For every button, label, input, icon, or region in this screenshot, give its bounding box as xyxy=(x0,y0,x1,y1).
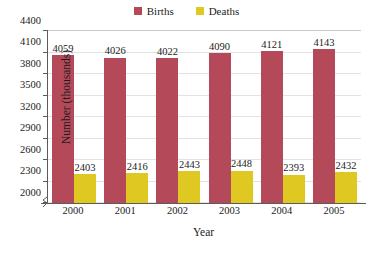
bar-value-label: 2416 xyxy=(127,162,148,173)
bar-value-label: 2448 xyxy=(231,159,252,170)
bar-deaths-2004: 2393 xyxy=(283,175,305,203)
bar-value-label: 2443 xyxy=(179,160,200,171)
chart-legend: Births Deaths xyxy=(0,2,373,20)
x-axis-labels: 200020012002200320042005 xyxy=(47,206,360,217)
bar-births-2003: 4090 xyxy=(209,53,231,203)
bar-group: 40902448 xyxy=(205,31,257,203)
x-axis-line xyxy=(41,203,366,204)
y-axis-tick-label: 3800 xyxy=(20,58,41,69)
legend-swatch-births xyxy=(134,7,142,15)
bar-group: 40222443 xyxy=(152,31,204,203)
y-axis-tick-label: 3200 xyxy=(20,101,41,112)
y-axis-tick-label: 4400 xyxy=(20,15,41,26)
x-axis-label-2005: 2005 xyxy=(308,206,360,217)
y-axis-tick-label: 4100 xyxy=(20,37,41,48)
bar-deaths-2005: 2432 xyxy=(335,172,357,203)
bar-births-2005: 4143 xyxy=(313,49,335,203)
bar-value-label: 4143 xyxy=(313,38,334,49)
y-axis-title: Number (thousands) xyxy=(60,32,72,162)
x-axis-label-2001: 2001 xyxy=(99,206,151,217)
y-axis-tick-label: 2300 xyxy=(20,166,41,177)
legend-label-births: Births xyxy=(147,6,174,17)
bar-value-label: 2432 xyxy=(335,161,356,172)
bar-deaths-2001: 2416 xyxy=(126,173,148,203)
bar-group: 41212393 xyxy=(257,31,309,203)
x-axis-label-2004: 2004 xyxy=(256,206,308,217)
bar-value-label: 2403 xyxy=(75,163,96,174)
bar-group: 40592403 xyxy=(48,31,100,203)
bar-deaths-2000: 2403 xyxy=(74,174,96,203)
bar-deaths-2003: 2448 xyxy=(231,171,253,203)
y-axis-tick-label: 2000 xyxy=(20,187,41,198)
bar-deaths-2002: 2443 xyxy=(178,171,200,203)
bar-value-label: 4090 xyxy=(209,42,230,53)
x-axis-label-2002: 2002 xyxy=(151,206,203,217)
x-axis-title: Year xyxy=(47,226,360,238)
bar-groups: 4059240340262416402224434090244841212393… xyxy=(48,31,361,203)
bar-births-2002: 4022 xyxy=(156,58,178,203)
bar-births-2001: 4026 xyxy=(104,58,126,203)
y-axis-tick-label: 2900 xyxy=(20,123,41,134)
y-axis-tick-label: 3500 xyxy=(20,80,41,91)
legend-entry-births: Births xyxy=(134,6,174,17)
plot-area: 200023002600290032003500380041004400 405… xyxy=(47,31,360,203)
bar-group: 41432432 xyxy=(309,31,361,203)
bar-value-label: 4121 xyxy=(261,40,282,51)
legend-entry-deaths: Deaths xyxy=(196,6,240,17)
bar-value-label: 4026 xyxy=(105,46,126,57)
y-axis-tick-label: 2600 xyxy=(20,144,41,155)
bar-births-2004: 4121 xyxy=(261,51,283,203)
legend-swatch-deaths xyxy=(196,7,204,15)
bar-value-label: 4022 xyxy=(157,47,178,58)
legend-label-deaths: Deaths xyxy=(209,6,240,17)
bar-group: 40262416 xyxy=(100,31,152,203)
x-axis-label-2000: 2000 xyxy=(47,206,99,217)
bar-value-label: 2393 xyxy=(283,163,304,174)
bar-chart: Births Deaths 20002300260029003200350038… xyxy=(0,0,373,255)
x-axis-label-2003: 2003 xyxy=(204,206,256,217)
